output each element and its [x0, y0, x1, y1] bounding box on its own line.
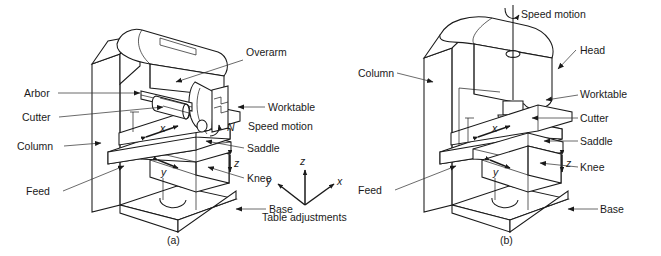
label-speed-motion-a: Speed motion	[248, 121, 313, 132]
label-head-b: Head	[580, 45, 605, 56]
label-y-motion-b: y	[493, 167, 498, 178]
caption-a: (a)	[167, 234, 180, 246]
label-feed-b: Feed	[358, 185, 382, 196]
axis-label-x: x	[337, 176, 342, 187]
spindle-support-a	[189, 82, 228, 132]
milling-machine-figure: Arbor Cutter Column Feed Overarm Worktab…	[0, 0, 661, 256]
axes-legend-drawing	[278, 170, 334, 205]
base-b	[452, 186, 568, 232]
head-b	[440, 17, 553, 109]
label-column-b: Column	[358, 68, 394, 79]
label-arbor-a: Arbor	[24, 88, 50, 99]
label-saddle-a: Saddle	[247, 143, 280, 154]
label-y-motion-a: y	[161, 167, 166, 178]
label-cutter-b: Cutter	[580, 113, 609, 124]
label-knee-b: Knee	[580, 162, 605, 173]
label-z-motion-a: z	[234, 158, 239, 169]
label-feed-a: Feed	[26, 186, 50, 197]
label-speed-motion-b: Speed motion	[521, 9, 586, 20]
label-worktable-b: Worktable	[580, 89, 627, 100]
label-z-motion-b: z	[566, 158, 571, 169]
axis-label-z: z	[300, 156, 305, 167]
label-n-rotation-a: N	[227, 122, 235, 133]
label-overarm-a: Overarm	[246, 47, 287, 58]
label-x-motion-b: x	[492, 123, 497, 134]
label-column-a: Column	[17, 141, 53, 152]
rotation-arrow-b	[505, 8, 519, 18]
label-worktable-a: Worktable	[268, 102, 315, 113]
label-cutter-a: Cutter	[22, 112, 51, 123]
axis-label-y: y	[266, 176, 271, 187]
label-saddle-b: Saddle	[580, 136, 613, 147]
caption-b: (b)	[500, 234, 513, 246]
label-base-b: Base	[600, 204, 624, 215]
panel-b-drawing	[395, 5, 598, 232]
axes-legend-caption: Table adjustments	[262, 212, 347, 223]
label-x-motion-a: x	[160, 123, 165, 134]
column-b	[424, 29, 472, 212]
base-a	[120, 186, 236, 232]
